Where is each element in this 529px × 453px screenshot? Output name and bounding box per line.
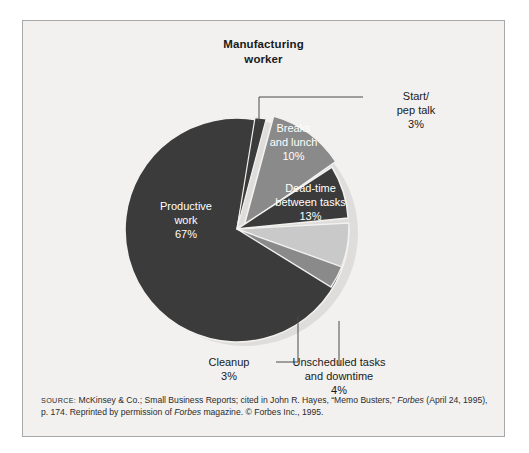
callout-label-start-pep-talk-line2: pep talk xyxy=(368,103,464,117)
source-note-italic-2: Forbes xyxy=(174,407,201,417)
slice-label-productive-work-line2: work xyxy=(131,213,241,227)
source-note-italic-1: Forbes xyxy=(397,395,424,405)
source-note-text-1: McKinsey & Co.; Small Business Reports; … xyxy=(76,395,397,405)
callout-label-unscheduled-tasks: Unscheduled tasks and downtime 4% xyxy=(274,355,404,397)
slice-label-breaks-and-lunch: Breaks and lunch 10% xyxy=(241,121,346,163)
callout-label-start-pep-talk-line1: Start/ xyxy=(368,89,464,103)
callout-label-start-pep-talk-value: 3% xyxy=(368,117,464,131)
source-note-prefix: source: xyxy=(41,396,76,405)
slice-label-dead-time-line2: between tasks xyxy=(248,195,373,209)
callout-label-cleanup: Cleanup 3% xyxy=(186,355,272,383)
callout-label-cleanup-value: 3% xyxy=(186,369,272,383)
slice-label-breaks-and-lunch-line2: and lunch xyxy=(241,135,346,149)
slice-label-breaks-and-lunch-line1: Breaks xyxy=(241,121,346,135)
slice-label-productive-work-value: 67% xyxy=(131,227,241,241)
figure-frame: Manufacturing worker Productive work 67%… xyxy=(22,20,505,437)
slice-label-dead-time-line1: Dead-time xyxy=(248,181,373,195)
callout-label-cleanup-line1: Cleanup xyxy=(186,355,272,369)
callout-label-unscheduled-tasks-line1: Unscheduled tasks xyxy=(274,355,404,369)
slice-label-productive-work: Productive work 67% xyxy=(131,199,241,241)
callout-label-unscheduled-tasks-line2: and downtime xyxy=(274,369,404,383)
slice-label-productive-work-line1: Productive xyxy=(131,199,241,213)
source-note-text-3: magazine. © Forbes Inc., 1995. xyxy=(201,407,323,417)
slice-label-dead-time: Dead-time between tasks 13% xyxy=(248,181,373,223)
source-note: source: McKinsey & Co.; Small Business R… xyxy=(41,395,493,418)
slice-label-dead-time-value: 13% xyxy=(248,209,373,223)
callout-label-start-pep-talk: Start/ pep talk 3% xyxy=(368,89,464,131)
slice-label-breaks-and-lunch-value: 10% xyxy=(241,149,346,163)
